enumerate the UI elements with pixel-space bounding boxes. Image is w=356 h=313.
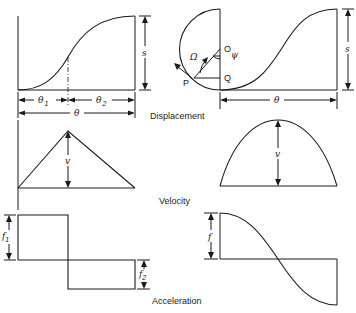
v-label: v xyxy=(65,156,70,166)
point-Q-label: Q xyxy=(224,73,231,83)
acceleration-caption: Acceleration xyxy=(152,296,202,306)
arrowhead-icon xyxy=(330,98,337,103)
arrowhead-icon xyxy=(208,213,214,220)
displacement-caption: Displacement xyxy=(150,111,205,121)
theta-label: θ xyxy=(274,95,280,105)
arrowhead-icon xyxy=(220,98,227,103)
acceleration-step xyxy=(18,215,135,289)
arrowhead-icon xyxy=(275,120,281,127)
point-P-label: P xyxy=(183,78,189,88)
velocity-triangle xyxy=(18,131,135,188)
velocity-caption: Velocity xyxy=(159,196,191,206)
s-label: s xyxy=(142,48,147,58)
arrowhead-icon xyxy=(141,282,147,289)
arrowhead-icon xyxy=(142,16,148,23)
displacement-parabolic-panel: s θ1 θ2 θ xyxy=(18,16,151,118)
arrowhead-icon xyxy=(345,83,351,90)
arrowhead-icon xyxy=(345,9,351,16)
arrowhead-icon xyxy=(65,131,71,138)
acceleration-harmonic-panel: f xyxy=(204,213,337,305)
arrowhead-icon xyxy=(208,252,214,259)
arrowhead-icon xyxy=(142,83,148,90)
arrowhead-icon xyxy=(18,111,25,116)
theta2-label: θ2 xyxy=(96,95,106,107)
arrowhead-icon xyxy=(275,179,281,186)
arrowhead-icon xyxy=(128,111,135,116)
acceleration-parabolic-panel: f1 f2 xyxy=(1,215,152,289)
displacement-curve xyxy=(18,16,135,90)
psi-label: ψ xyxy=(231,50,239,60)
radius-OP xyxy=(194,49,220,78)
arrowhead-icon xyxy=(6,253,12,260)
arrowhead-icon xyxy=(65,181,71,188)
arrowhead-icon xyxy=(68,98,75,103)
velocity-harmonic-panel: v xyxy=(220,120,337,186)
theta-label: θ xyxy=(74,108,80,118)
displacement-harmonic-panel: ψ O Q P Ω s θ xyxy=(174,9,354,109)
arrowhead-icon xyxy=(128,98,135,103)
arrowhead-icon xyxy=(6,215,12,222)
theta1-label: θ1 xyxy=(38,95,48,107)
cam-motion-diagram: s θ1 θ2 θ ψ O Q P xyxy=(0,0,356,313)
arrowhead-icon xyxy=(18,98,25,103)
omega-label: Ω xyxy=(189,52,198,62)
velocity-parabolic-panel: v xyxy=(18,120,135,210)
point-O-label: O xyxy=(224,44,231,54)
arrowhead-icon xyxy=(61,98,68,103)
v-label: v xyxy=(275,149,280,159)
s-label: s xyxy=(345,44,350,54)
arrowhead-icon xyxy=(141,260,147,267)
